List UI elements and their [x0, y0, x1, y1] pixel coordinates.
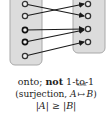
domain-element-dot: [22, 13, 27, 18]
codomain-element-dot: [85, 26, 90, 31]
surjection-diagram: [0, 0, 112, 72]
domain-element-dot: [22, 1, 27, 6]
caption-not-bold: not: [45, 76, 63, 87]
codomain-element-dot: [85, 13, 90, 18]
caption-surjection-text: (surjection,: [15, 89, 70, 99]
caption-line-onto: onto; not 1-to-1: [0, 76, 112, 88]
surjection-arrow-symbol: SUR↦: [77, 88, 87, 100]
maps-to-icon: ↦: [78, 89, 86, 99]
domain-element-dot: [22, 27, 27, 32]
caption-onto-text: onto;: [18, 76, 46, 87]
domain-element-dot: [22, 53, 27, 58]
sur-label: SUR: [76, 83, 88, 87]
caption-close-paren: ): [93, 89, 97, 99]
domain-element-dot: [22, 39, 27, 44]
caption-line-surjection: (surjection, ASUR↦B): [0, 88, 112, 100]
caption-cardinality: |A| ≥ |B|: [0, 100, 112, 112]
codomain-element-dot: [85, 1, 90, 6]
codomain-element-dot: [85, 39, 90, 44]
